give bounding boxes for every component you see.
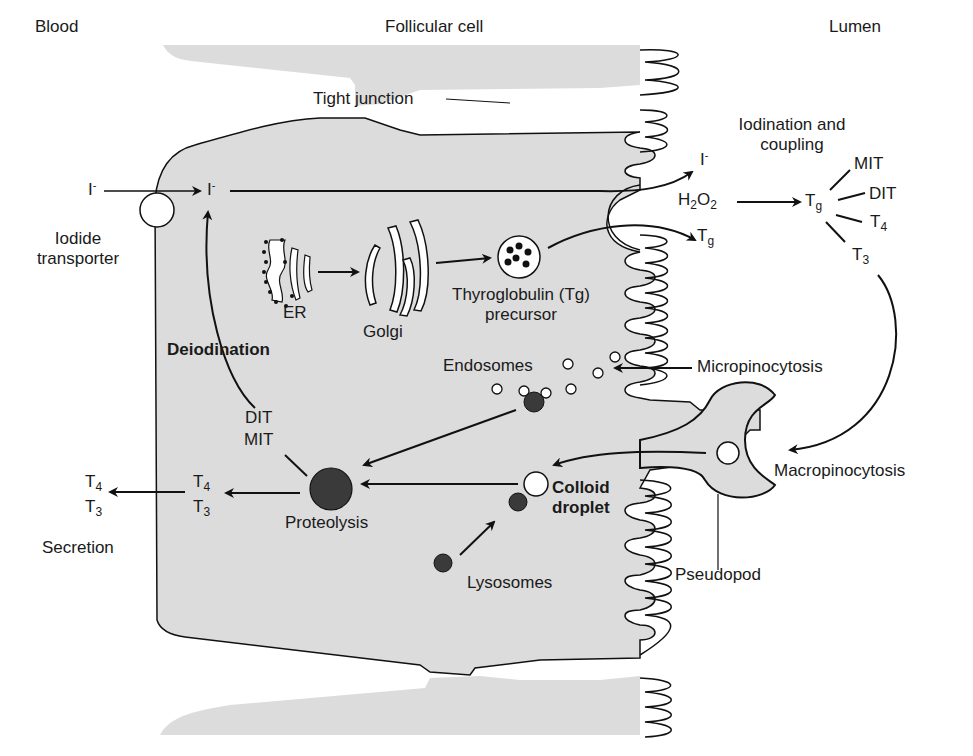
tight-junction-label: Tight junction — [313, 89, 413, 109]
macropinocytosis-label: Macropinocytosis — [774, 461, 905, 481]
iodination-coupling-label: Iodination and coupling — [717, 115, 867, 155]
iodinated-tg-label: Tg — [805, 191, 822, 211]
er-label: ER — [283, 303, 307, 323]
cell-t4-label: T4 — [193, 472, 210, 492]
tg-branches — [826, 170, 865, 242]
cell-iodide-label: I- — [207, 180, 215, 200]
colloid-droplet — [524, 472, 548, 496]
region-label-lumen: Lumen — [829, 17, 881, 37]
proteolysis-lysosome — [310, 468, 352, 510]
blood-iodide-label: I- — [88, 180, 96, 200]
tight-junction-leader-line — [446, 99, 510, 103]
mit-label: MIT — [244, 430, 273, 450]
lysosomes-label: Lysosomes — [467, 573, 552, 593]
thyroglobulin-precursor-vesicle — [498, 236, 540, 278]
iodide-transporter-label: Iodide transporter — [28, 229, 128, 269]
thyroid-follicular-cell-diagram — [0, 0, 973, 756]
pseudopod-vesicle — [717, 442, 739, 464]
endosomes-label: Endosomes — [443, 356, 533, 376]
lysosome — [434, 554, 452, 572]
deiodination-label: Deiodination — [167, 340, 270, 360]
iodide-transporter-icon — [140, 193, 174, 227]
secreted-t3-label: T3 — [85, 497, 102, 517]
region-label-blood: Blood — [35, 17, 78, 37]
lower-neighbor-cell — [160, 676, 640, 735]
h2o2-label: H2O2 — [678, 190, 717, 210]
cell-t3-label: T3 — [193, 497, 210, 517]
endosome-lysosome-fusion — [524, 392, 544, 412]
pseudopod-label: Pseudopod — [675, 565, 761, 585]
micropinocytosis-label: Micropinocytosis — [697, 357, 823, 377]
colloid-lysosome — [509, 493, 527, 511]
lumen-t4-label: T4 — [870, 212, 887, 232]
lumen-t3-label: T3 — [852, 245, 869, 265]
dit-label: DIT — [245, 408, 272, 428]
pseudopod — [640, 382, 775, 497]
region-label-follicular-cell: Follicular cell — [385, 17, 483, 37]
secretion-label: Secretion — [42, 538, 114, 558]
golgi-label: Golgi — [363, 322, 403, 342]
secreted-t4-label: T4 — [85, 472, 102, 492]
colloid-droplet-label: Colloid droplet — [552, 478, 610, 518]
thyroglobulin-precursor-label: Thyroglobulin (Tg) precursor — [435, 285, 607, 325]
lumen-tg-label: Tg — [697, 226, 714, 246]
lumen-mit-label: MIT — [854, 154, 883, 174]
proteolysis-label: Proteolysis — [285, 513, 368, 533]
lumen-iodide-label: I- — [700, 150, 708, 170]
lumen-dit-label: DIT — [869, 184, 896, 204]
